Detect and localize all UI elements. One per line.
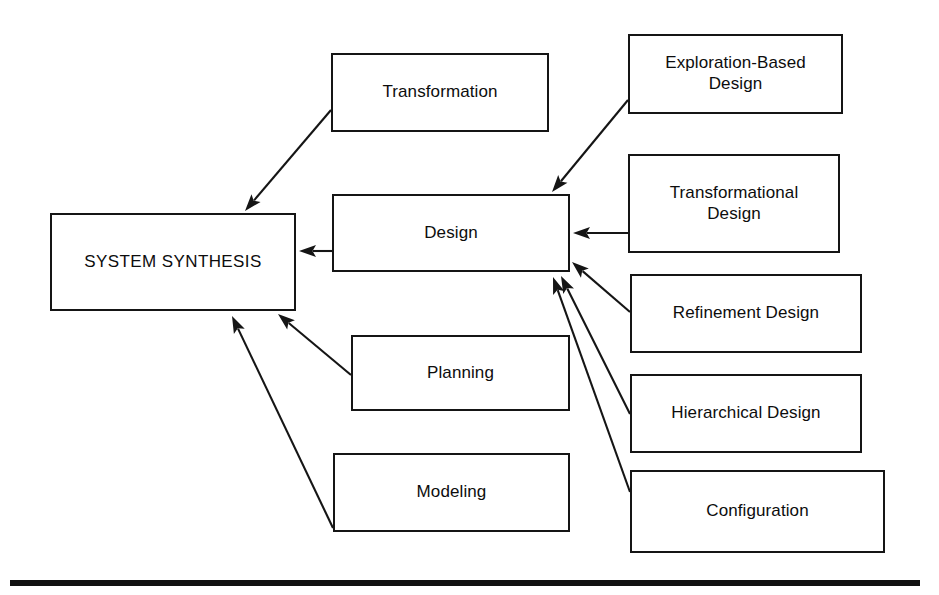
node-refinement-design[interactable]: Refinement Design (630, 274, 862, 353)
arrow-head (299, 245, 316, 257)
arrow-transformation-to-system-synthesis (245, 110, 331, 211)
arrow-shaft (289, 323, 351, 375)
node-system-synthesis[interactable]: SYSTEM SYNTHESIS (50, 213, 296, 311)
node-label-transformation: Transformation (376, 82, 503, 103)
bottom-horizontal-rule (10, 580, 920, 586)
node-label-refinement-design: Refinement Design (667, 303, 825, 324)
node-label-transformational-design: Transformational Design (664, 183, 805, 224)
arrow-shaft (561, 100, 628, 181)
arrow-shaft (583, 271, 630, 312)
node-label-system-synthesis: SYSTEM SYNTHESIS (78, 252, 267, 273)
node-label-configuration: Configuration (700, 501, 814, 522)
node-configuration[interactable]: Configuration (630, 470, 885, 553)
arrow-exploration-based-design-to-design (552, 100, 628, 192)
node-design[interactable]: Design (332, 194, 570, 272)
node-label-hierarchical-design: Hierarchical Design (665, 403, 826, 424)
arrow-design-to-system-synthesis (299, 245, 332, 257)
arrow-head (245, 194, 261, 211)
arrow-head (552, 175, 567, 192)
arrow-shaft (238, 329, 333, 528)
arrow-head (561, 276, 574, 294)
arrow-transformational-design-to-design (573, 227, 628, 239)
arrow-head (553, 277, 564, 295)
node-exploration-based-design[interactable]: Exploration-Based Design (628, 34, 843, 114)
arrow-planning-to-system-synthesis (278, 314, 351, 375)
arrow-head (232, 316, 245, 334)
node-label-exploration-based-design: Exploration-Based Design (659, 53, 812, 94)
arrow-hierarchical-design-to-design (561, 276, 630, 414)
node-label-planning: Planning (421, 363, 500, 384)
node-label-design: Design (418, 223, 484, 244)
arrow-refinement-design-to-design (572, 262, 630, 312)
node-modeling[interactable]: Modeling (333, 453, 570, 532)
node-label-modeling: Modeling (411, 482, 493, 503)
arrow-shaft (254, 110, 331, 200)
node-hierarchical-design[interactable]: Hierarchical Design (630, 374, 862, 453)
node-transformation[interactable]: Transformation (331, 53, 549, 132)
arrow-head (278, 314, 295, 330)
arrow-shaft (567, 289, 630, 414)
arrow-head (573, 227, 590, 239)
node-transformational-design[interactable]: Transformational Design (628, 154, 840, 253)
node-planning[interactable]: Planning (351, 335, 570, 411)
arrow-head (572, 262, 589, 278)
arrow-modeling-to-system-synthesis (232, 316, 333, 528)
system-synthesis-diagram: SYSTEM SYNTHESISTransformationDesignPlan… (0, 0, 939, 595)
